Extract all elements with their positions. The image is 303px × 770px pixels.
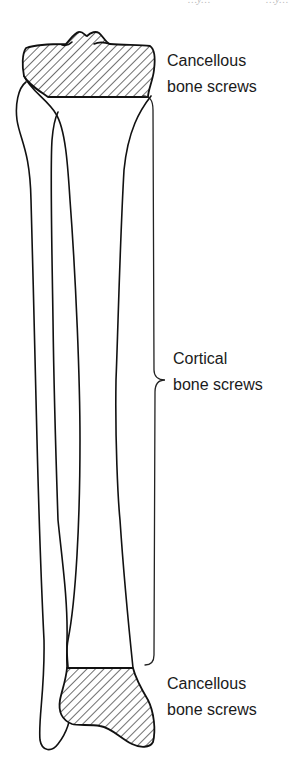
label-bot-line2: bone screws bbox=[167, 697, 257, 723]
label-middle-cortical: Cortical bone screws bbox=[173, 346, 263, 398]
label-top-cancellous: Cancellous bone screws bbox=[167, 48, 257, 100]
fibula-outline bbox=[16, 82, 71, 750]
label-top-line2: bone screws bbox=[167, 74, 257, 100]
tibia-right-edge bbox=[116, 96, 151, 668]
distal-cancellous-region bbox=[60, 668, 155, 747]
label-top-line1: Cancellous bbox=[167, 48, 257, 74]
label-mid-line1: Cortical bbox=[173, 346, 263, 372]
label-bottom-cancellous: Cancellous bone screws bbox=[167, 671, 257, 723]
label-mid-line2: bone screws bbox=[173, 372, 263, 398]
label-bot-line1: Cancellous bbox=[167, 671, 257, 697]
cortical-brace bbox=[143, 96, 165, 665]
proximal-cancellous-region bbox=[23, 32, 155, 97]
